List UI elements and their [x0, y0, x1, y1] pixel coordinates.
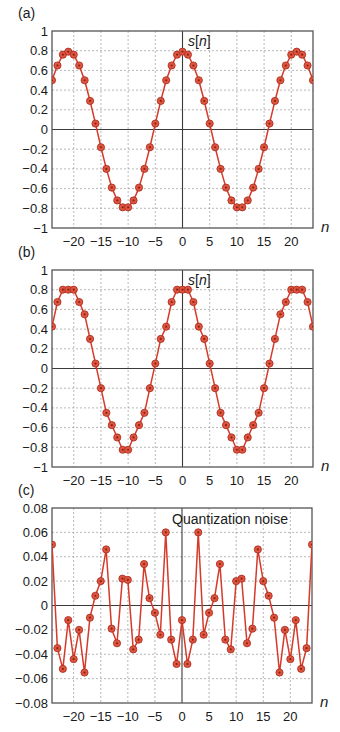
data-point-center [306, 64, 308, 66]
data-point-center [290, 54, 292, 56]
data-point-center [301, 54, 303, 56]
y-tick-label: 0.2 [30, 341, 48, 356]
data-point-center [116, 436, 118, 438]
data-point-center [62, 54, 64, 56]
data-point-center [89, 617, 91, 619]
data-point-center [214, 146, 216, 148]
y-tick-label: 0 [41, 122, 48, 137]
data-point-center [116, 199, 118, 201]
data-point-center [289, 658, 291, 660]
data-point-center [197, 531, 199, 533]
y-tick-label: −0.8 [22, 201, 48, 216]
x-tick-label: −20 [63, 473, 85, 488]
data-point-center [252, 424, 254, 426]
data-point-center [73, 289, 75, 291]
x-tick-label: 20 [283, 709, 297, 724]
x-tick-label: 15 [257, 473, 271, 488]
data-point-center [176, 54, 178, 56]
data-point-center [73, 54, 75, 56]
panel-c-chart: (c)0.080.060.040.020−0.02−0.04−0.06−0.08… [15, 482, 328, 724]
data-point-center [149, 146, 151, 148]
y-tick-label: −0.02 [15, 622, 48, 637]
data-point-center [187, 54, 189, 56]
data-point-center [94, 122, 96, 124]
y-tick-label: 0.6 [30, 63, 48, 78]
data-point-center [111, 424, 113, 426]
data-point-center [258, 168, 260, 170]
data-point-center [246, 642, 248, 644]
data-point-center [171, 64, 173, 66]
data-point-center [198, 326, 200, 328]
x-tick-label: −15 [90, 709, 112, 724]
data-point-center [132, 436, 134, 438]
data-point-center [148, 597, 150, 599]
panel-label: (c) [18, 482, 34, 498]
data-point-center [56, 64, 58, 66]
y-tick-label: 1 [41, 24, 48, 39]
x-tick-label: −20 [63, 234, 85, 249]
y-tick-label: −0.6 [22, 181, 48, 196]
data-point-center [225, 187, 227, 189]
data-point-center [219, 412, 221, 414]
data-point-center [143, 563, 145, 565]
data-point-center [94, 595, 96, 597]
y-tick-label: −0.8 [22, 440, 48, 455]
panel-label: (a) [18, 5, 35, 21]
x-tick-label: −10 [117, 709, 139, 724]
chart-title: s[n] [188, 272, 211, 288]
y-tick-label: −1 [33, 221, 48, 236]
data-point-center [165, 531, 167, 533]
y-tick-label: −0.4 [22, 400, 48, 415]
y-tick-label: −0.2 [22, 381, 48, 396]
data-point-center [105, 548, 107, 550]
x-tick-label: 0 [179, 234, 186, 249]
data-point-center [100, 146, 102, 148]
data-point-center [51, 543, 53, 545]
data-point-center [127, 206, 129, 208]
x-tick-label: −15 [90, 473, 112, 488]
data-point-center [121, 578, 123, 580]
data-point-center [67, 289, 69, 291]
data-point-center [132, 648, 134, 650]
data-point-center [154, 362, 156, 364]
data-point-center [138, 187, 140, 189]
data-point-center [290, 289, 292, 291]
data-point-center [241, 206, 243, 208]
data-point-center [305, 647, 307, 649]
data-point-center [143, 412, 145, 414]
data-point-center [257, 548, 259, 550]
y-tick-label: 0.4 [30, 83, 48, 98]
data-point-center [247, 436, 249, 438]
data-point-center [138, 424, 140, 426]
data-point-center [208, 612, 210, 614]
y-tick-label: 0.02 [23, 574, 48, 589]
data-point-center [274, 338, 276, 340]
y-tick-label: 0.4 [30, 322, 48, 337]
data-point-center [284, 629, 286, 631]
data-point-center [214, 387, 216, 389]
data-point-center [78, 629, 80, 631]
data-point-center [67, 619, 69, 621]
y-tick-label: 0.06 [23, 525, 48, 540]
data-point-center [111, 187, 113, 189]
data-point-center [105, 412, 107, 414]
panel-a-chart: (a)10.80.60.40.20−0.2−0.4−0.6−0.8−1−20−1… [18, 5, 329, 249]
data-point-center [160, 338, 162, 340]
data-point-center [51, 326, 53, 328]
figure-canvas: (a)10.80.60.40.20−0.2−0.4−0.6−0.8−1−20−1… [0, 0, 340, 732]
data-point-center [176, 289, 178, 291]
data-point-center [230, 436, 232, 438]
y-tick-label: 0 [41, 598, 48, 613]
data-point-center [127, 579, 129, 581]
y-tick-label: −0.2 [22, 142, 48, 157]
data-point-center [56, 647, 58, 649]
figure: (a)10.80.60.40.20−0.2−0.4−0.6−0.8−1−20−1… [0, 0, 340, 732]
data-point-center [236, 449, 238, 451]
x-tick-label: −5 [148, 234, 163, 249]
data-point-center [312, 326, 314, 328]
data-point-center [100, 580, 102, 582]
data-point-center [78, 301, 80, 303]
data-point-center [296, 51, 298, 53]
data-point-center [274, 100, 276, 102]
data-point-center [62, 668, 64, 670]
